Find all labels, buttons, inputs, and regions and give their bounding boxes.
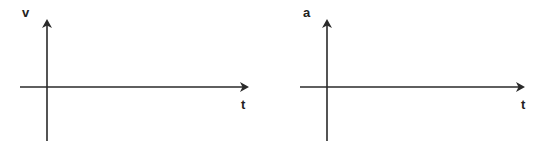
velocity-time-graph: v t (0, 0, 269, 150)
x-axis-label: t (521, 98, 525, 111)
y-axis-label: a (303, 6, 310, 19)
y-axis-label: v (22, 6, 29, 19)
x-axis-label: t (241, 98, 245, 111)
acceleration-time-axes (269, 0, 538, 150)
acceleration-time-graph: a t (269, 0, 538, 150)
velocity-time-axes (0, 0, 269, 150)
